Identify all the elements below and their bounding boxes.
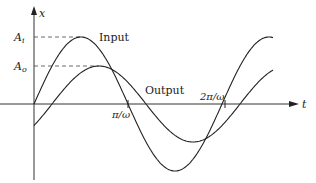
tick-label-2pi-over-omega: 2π/ω: [199, 91, 224, 102]
output-curve-label: Output: [145, 84, 185, 97]
amplitude-label-output: Ao: [13, 60, 27, 74]
axis-arrow-icon: [31, 6, 37, 15]
amplitude-label-input: Ai: [13, 31, 25, 45]
axis-arrow-icon: [289, 101, 299, 107]
horizontal-axis: t: [0, 98, 307, 111]
diagram-canvas: x t Ai Ao Input Output π/ω 2π/ω: [0, 0, 316, 183]
input-curve-label: Input: [99, 31, 130, 44]
horizontal-axis-label: t: [302, 98, 307, 111]
vertical-axis-label: x: [39, 7, 46, 20]
tick-label-pi-over-omega: π/ω: [111, 109, 130, 120]
